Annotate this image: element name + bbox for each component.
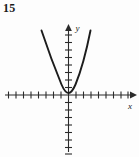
figure-container: 15 bbox=[0, 0, 139, 157]
x-axis-label: x bbox=[127, 101, 132, 111]
y-axis-arrow-icon bbox=[65, 24, 72, 31]
x-axis-arrow-icon bbox=[130, 92, 137, 99]
parabola-curve bbox=[42, 31, 91, 94]
coordinate-plot: y x bbox=[0, 0, 139, 157]
parabola-graph-svg: y x bbox=[0, 0, 139, 157]
y-axis-label: y bbox=[75, 23, 80, 33]
